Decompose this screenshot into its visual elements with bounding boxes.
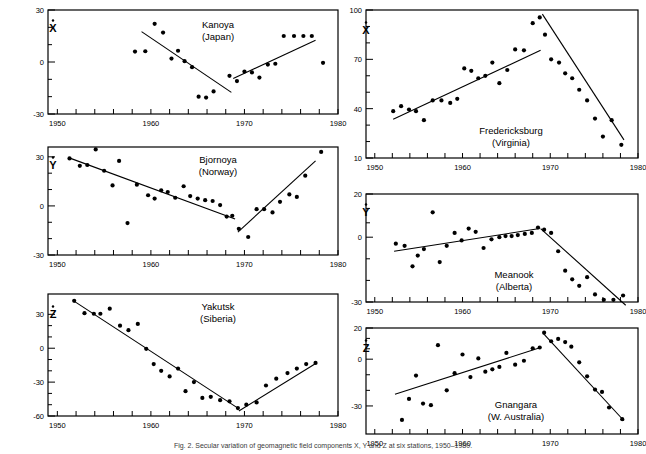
data-point (236, 406, 240, 410)
data-point (287, 192, 291, 196)
data-point (563, 340, 567, 344)
data-point (445, 388, 449, 392)
data-point (422, 118, 426, 122)
data-point (610, 118, 614, 122)
data-point (619, 143, 623, 147)
x-tick-label: 1980 (630, 307, 646, 316)
component-label-z: Z (363, 342, 370, 354)
data-point (490, 367, 494, 371)
data-point (313, 361, 317, 365)
component-overdot-icon (365, 339, 367, 341)
data-point (159, 188, 163, 192)
x-tick-label: 1960 (143, 260, 160, 269)
data-point (516, 233, 520, 237)
y-tick-label: -30 (33, 110, 44, 119)
data-point (196, 196, 200, 200)
data-point (585, 275, 589, 279)
x-tick-label: 1960 (454, 163, 471, 172)
y-tick-label: 70 (354, 55, 362, 64)
y-tick-label: 30 (36, 153, 44, 162)
plot-frame (48, 10, 338, 114)
data-point (197, 95, 201, 99)
data-point (503, 234, 507, 238)
data-point (585, 374, 589, 378)
data-point (264, 383, 268, 387)
data-point (98, 312, 102, 316)
x-tick-label: 1970 (236, 119, 253, 128)
x-tick-label: 1970 (542, 163, 559, 172)
data-point (489, 237, 493, 241)
data-point (203, 198, 207, 202)
y-tick-label: 30 (36, 6, 44, 15)
station-region: (Norway) (199, 166, 238, 177)
data-point (262, 207, 266, 211)
data-point (601, 135, 605, 139)
data-point (304, 362, 308, 366)
data-point (407, 107, 411, 111)
data-point (168, 374, 172, 378)
data-point (110, 183, 114, 187)
station-name: Kanoya (202, 19, 235, 30)
data-point (200, 396, 204, 400)
panel-gnangara: 1950196019701980-30020ZGnangara(W. Austr… (336, 322, 642, 454)
data-point (255, 400, 259, 404)
fit-line-rising-trend (394, 229, 540, 252)
data-point (497, 81, 501, 85)
y-tick-label: 20 (354, 190, 362, 199)
data-point (422, 247, 426, 251)
data-point (72, 299, 76, 303)
data-point (556, 249, 560, 253)
data-point (190, 65, 194, 69)
data-point (421, 402, 425, 406)
data-point (235, 79, 239, 83)
data-point (295, 195, 299, 199)
y-tick-label: 30 (36, 310, 44, 319)
data-point (577, 360, 581, 364)
data-point (621, 293, 625, 297)
data-point (399, 104, 403, 108)
data-point (230, 214, 234, 218)
station-name: Gnangara (495, 399, 538, 410)
data-point (445, 244, 449, 248)
data-point (483, 74, 487, 78)
data-point (522, 359, 526, 363)
data-point (153, 196, 157, 200)
data-point (563, 269, 567, 273)
panel-kanoya: 1950196019701980-30030XKanoya(Japan) (18, 4, 342, 134)
x-tick-label: 1970 (542, 307, 559, 316)
data-point (476, 76, 480, 80)
data-point (237, 227, 241, 231)
data-point (282, 34, 286, 38)
station-name: Bjornoya (199, 154, 237, 165)
data-point (301, 34, 305, 38)
data-point (303, 174, 307, 178)
y-tick-label: 100 (349, 6, 362, 15)
data-point (538, 15, 542, 19)
data-point (108, 307, 112, 311)
data-point (321, 61, 325, 65)
component-overdot-icon (52, 305, 54, 307)
data-point (436, 343, 440, 347)
data-point (448, 101, 452, 105)
data-point (607, 405, 611, 409)
component-label-x: X (49, 22, 57, 34)
x-tick-label: 1950 (49, 119, 66, 128)
data-point (602, 298, 606, 302)
component-overdot-icon (365, 203, 367, 205)
y-tick-label: -30 (351, 402, 362, 411)
data-point (474, 230, 478, 234)
x-tick-label: 1970 (236, 260, 253, 269)
data-point (410, 264, 414, 268)
data-point (310, 34, 314, 38)
x-tick-label: 1950 (366, 163, 383, 172)
data-point (266, 63, 270, 67)
data-point (570, 277, 574, 281)
data-point (620, 417, 624, 421)
data-point (414, 109, 418, 113)
data-point (227, 74, 231, 78)
data-point (549, 57, 553, 61)
data-point (192, 380, 196, 384)
component-label-y: Y (362, 206, 370, 218)
data-point (250, 70, 254, 74)
data-point (125, 221, 129, 225)
